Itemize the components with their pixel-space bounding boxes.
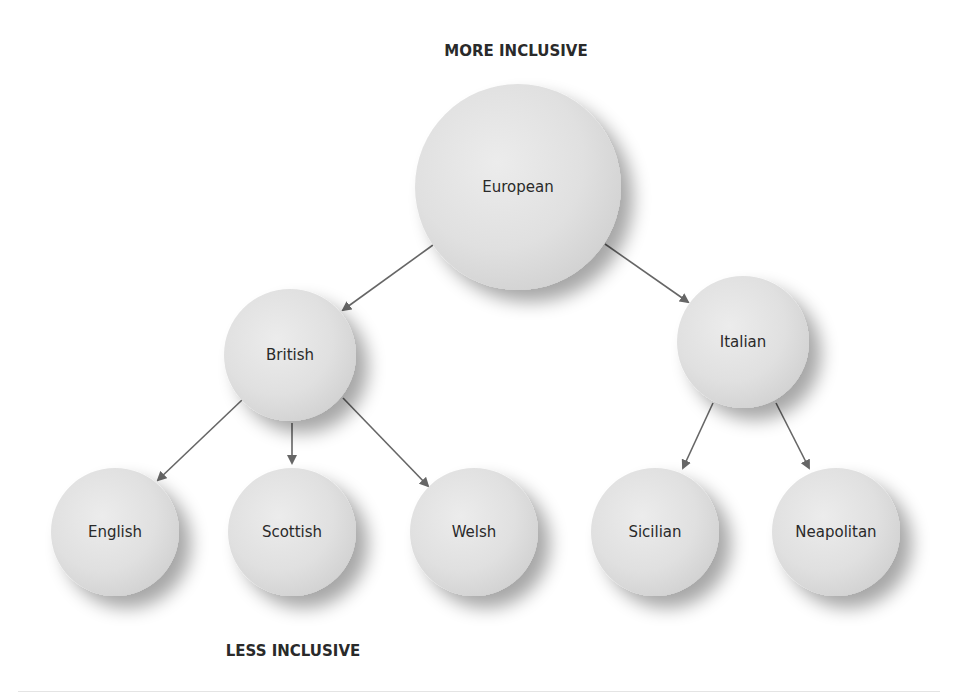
less-inclusive-label: LESS INCLUSIVE xyxy=(226,642,361,660)
node-english: English xyxy=(51,468,179,596)
bottom-divider xyxy=(18,691,940,692)
nodes-group: EuropeanBritishItalianEnglishScottishWel… xyxy=(51,84,900,596)
node-label: Italian xyxy=(720,333,767,351)
arrow-european-to-italian xyxy=(605,244,688,302)
arrow-european-to-british xyxy=(343,245,433,310)
node-italian: Italian xyxy=(677,276,809,408)
more-inclusive-label: MORE INCLUSIVE xyxy=(444,42,587,60)
arrow-british-to-welsh xyxy=(343,398,428,486)
node-label: Welsh xyxy=(452,523,497,541)
node-label: European xyxy=(482,178,553,196)
hierarchy-diagram: MORE INCLUSIVE EuropeanBritishItalianEng… xyxy=(0,0,963,694)
node-british: British xyxy=(224,289,356,421)
node-scottish: Scottish xyxy=(228,468,356,596)
arrow-italian-to-neapolitan xyxy=(776,403,809,468)
node-european: European xyxy=(415,84,621,290)
arrow-british-to-english xyxy=(158,400,242,480)
node-label: Neapolitan xyxy=(795,523,876,541)
node-label: British xyxy=(266,346,314,364)
arrow-italian-to-sicilian xyxy=(683,403,713,468)
node-label: English xyxy=(88,523,142,541)
node-label: Scottish xyxy=(262,523,322,541)
node-welsh: Welsh xyxy=(410,468,538,596)
node-sicilian: Sicilian xyxy=(591,468,719,596)
node-neapolitan: Neapolitan xyxy=(772,468,900,596)
node-label: Sicilian xyxy=(628,523,681,541)
